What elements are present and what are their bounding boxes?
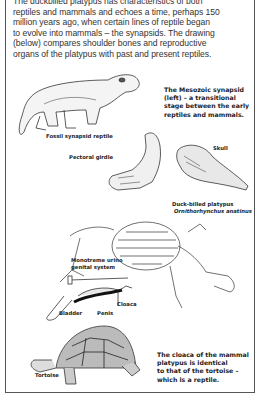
penis-label: Penis: [97, 310, 113, 316]
caption-line: stage between the early: [164, 102, 249, 110]
tortoise-label: Tortoise: [35, 372, 59, 378]
pectoral-girdle-illustration: [109, 133, 160, 190]
caption-line: The Mesozoic synapsid: [164, 86, 249, 94]
fossil-reptile-label: Fossil synapsid reptile: [46, 133, 113, 139]
skull-label: Skull: [213, 145, 228, 151]
platypus-scientific-name: Ornithorhynchus anatinus: [174, 208, 252, 214]
cloaca-label: Cloaca: [117, 301, 137, 307]
caption-line: (left) – a transitional: [164, 94, 249, 102]
caption-line: The cloaca of the mammal: [157, 351, 249, 359]
caption-line: to that of the tortoise –: [157, 367, 249, 375]
urinogenital-label-line2: genital system: [71, 264, 115, 270]
mesozoic-caption: The Mesozoic synapsid (left) – a transit…: [164, 86, 249, 119]
caption-line: which is a reptile.: [157, 376, 249, 384]
caption-line: reptiles and mammals.: [164, 111, 249, 119]
platypus-label: Duck-billed platypus: [172, 201, 233, 207]
pectoral-girdle-label: Pectoral girdle: [69, 154, 113, 160]
fossil-reptile-illustration: [19, 75, 139, 135]
bladder-label: Bladder: [59, 310, 82, 316]
cloaca-caption: The cloaca of the mammal platypus is ide…: [157, 351, 249, 384]
skull-illustration: [177, 145, 248, 190]
caption-line: platypus is identical: [157, 359, 249, 367]
urinogenital-label-line1: Monotreme urino: [71, 257, 123, 263]
